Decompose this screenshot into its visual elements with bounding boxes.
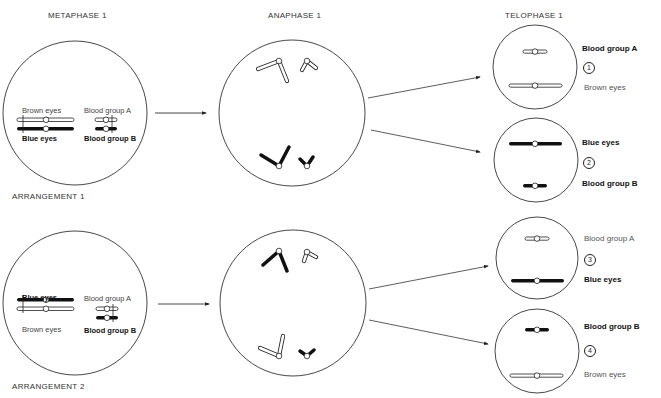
telo2-number-badge: 2 bbox=[583, 157, 595, 169]
telo4-number-badge: 4 bbox=[584, 345, 596, 357]
telophase-cell-2 bbox=[494, 118, 578, 202]
telo3-top-label: Blood group A bbox=[584, 234, 634, 243]
label-brown-eyes-a1: Brown eyes bbox=[22, 106, 61, 115]
label-blood-group-a-a2: Blood group A bbox=[84, 294, 131, 303]
arrow-ana1-to-telo2 bbox=[371, 130, 480, 152]
anaphase-cell-2 bbox=[220, 230, 366, 376]
telo3-number-badge: 3 bbox=[584, 254, 596, 266]
telophase-cell-1 bbox=[493, 25, 577, 109]
telophase-cell-4 bbox=[495, 309, 579, 393]
arrangement-2-label: ARRANGEMENT 2 bbox=[12, 382, 85, 391]
telo3-bottom-label: Blue eyes bbox=[584, 275, 621, 284]
telo1-number-badge: 1 bbox=[583, 62, 595, 74]
arrow-ana2-to-telo4 bbox=[369, 320, 488, 344]
telo4-bottom-label: Brown eyes bbox=[584, 370, 626, 379]
meiosis-diagram bbox=[0, 0, 661, 398]
telo4-top-label: Blood group B bbox=[584, 322, 640, 331]
arrangement-1-label: ARRANGEMENT 1 bbox=[12, 192, 85, 201]
label-blood-group-b-a2: Blood group B bbox=[84, 326, 136, 335]
telophase-cell-3 bbox=[496, 217, 578, 299]
label-brown-eyes-a2: Brown eyes bbox=[22, 325, 61, 334]
telo2-top-label: Blue eyes bbox=[582, 138, 619, 147]
label-blood-group-b-a1: Blood group B bbox=[84, 134, 136, 143]
arrow-ana1-to-telo1 bbox=[368, 77, 480, 98]
label-blue-eyes-a2: Blue eyes bbox=[22, 293, 57, 302]
arrow-ana2-to-telo3 bbox=[369, 266, 488, 289]
label-blue-eyes-a1: Blue eyes bbox=[22, 134, 57, 143]
chromosome-blood-group-a bbox=[95, 115, 117, 124]
anaphase-cell-1 bbox=[219, 40, 365, 186]
chromosome-blood-group-b bbox=[95, 124, 117, 133]
label-blood-group-a-a1: Blood group A bbox=[84, 106, 131, 115]
metaphase-cell-2 bbox=[3, 231, 147, 375]
telo2-bottom-label: Blood group B bbox=[582, 179, 638, 188]
telo1-top-label: Blood group A bbox=[582, 44, 637, 53]
telo1-bottom-label: Brown eyes bbox=[584, 83, 626, 92]
